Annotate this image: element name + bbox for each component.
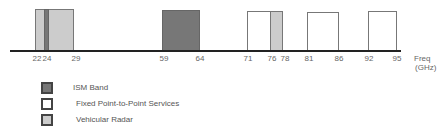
tick-label: 64 — [196, 54, 205, 63]
tick-label: 86 — [335, 54, 344, 63]
legend-label-ism: ISM Band — [73, 83, 108, 92]
band-fixed-71-76 — [247, 11, 271, 50]
tick-label: 95 — [393, 54, 402, 63]
legend-label-radar: Vehicular Radar — [76, 115, 133, 124]
legend-swatch-radar — [41, 114, 53, 126]
tick-label: 29 — [72, 54, 81, 63]
tick-label: 92 — [365, 54, 374, 63]
axis-unit-label: Freq (GHz) — [414, 54, 436, 72]
tick-label: 76 — [268, 54, 277, 63]
band-ism-59-64 — [162, 10, 200, 50]
tick-label: 22 — [33, 54, 42, 63]
tick-label: 81 — [305, 54, 314, 63]
band-ism-24 — [44, 9, 49, 50]
legend-swatch-fixed — [41, 98, 53, 110]
band-fixed-81-86 — [307, 12, 339, 50]
band-fixed-92-95 — [368, 11, 397, 50]
band-vehicular-radar-22-29 — [35, 9, 74, 50]
tick-label: 59 — [160, 54, 169, 63]
legend-swatch-ism — [41, 82, 53, 94]
axis-unit-line2: (GHz) — [415, 63, 436, 72]
tick-label: 78 — [281, 54, 290, 63]
tick-label: 71 — [244, 54, 253, 63]
frequency-axis — [10, 50, 401, 52]
axis-unit-line1: Freq — [414, 54, 436, 63]
band-vehicular-radar-76-78 — [270, 11, 283, 50]
tick-label: 24 — [43, 54, 52, 63]
legend-label-fixed: Fixed Point-to-Point Services — [76, 99, 179, 108]
